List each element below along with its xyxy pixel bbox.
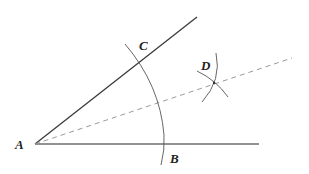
ray-ac — [35, 17, 197, 144]
geometry-diagram: A B C D — [0, 0, 309, 174]
arc-from-b — [197, 71, 228, 97]
label-c: C — [139, 38, 148, 53]
label-d: D — [200, 58, 211, 73]
arc-bc — [125, 44, 164, 165]
label-a: A — [14, 137, 24, 152]
label-b: B — [169, 151, 179, 166]
point-d-marker — [213, 82, 215, 84]
